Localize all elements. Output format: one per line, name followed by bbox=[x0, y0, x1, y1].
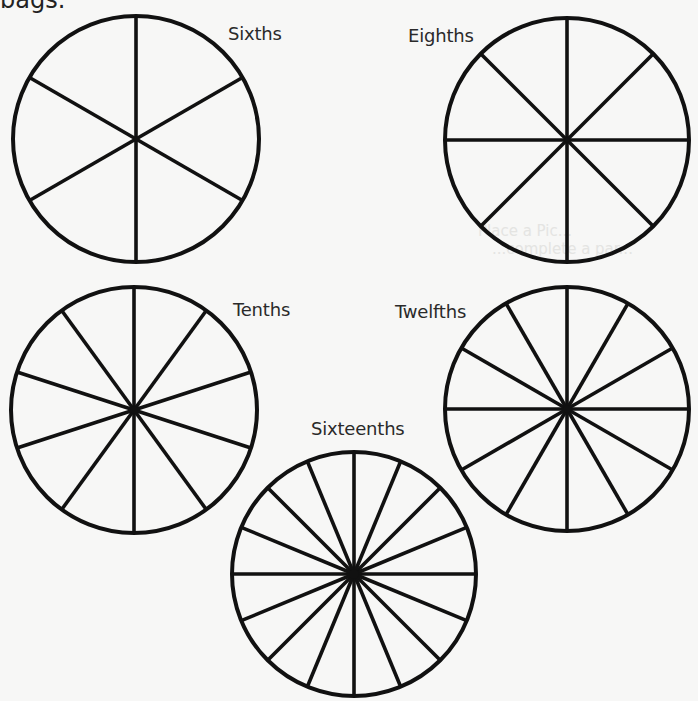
center-point bbox=[131, 407, 138, 414]
division-line bbox=[481, 54, 567, 140]
center-point bbox=[564, 406, 571, 413]
division-line bbox=[134, 410, 206, 510]
division-line bbox=[17, 410, 134, 448]
division-line bbox=[136, 139, 243, 201]
division-line bbox=[17, 372, 134, 410]
division-line bbox=[354, 488, 440, 574]
division-line bbox=[268, 574, 354, 660]
center-point bbox=[349, 569, 359, 579]
division-line bbox=[481, 140, 567, 226]
division-line bbox=[567, 140, 653, 226]
division-line bbox=[62, 410, 134, 510]
division-line bbox=[136, 78, 243, 140]
label-twelfths: Twelfths bbox=[395, 303, 466, 321]
division-line bbox=[134, 310, 206, 410]
division-line bbox=[62, 310, 134, 410]
center-point bbox=[134, 137, 139, 142]
label-tenths: Tenths bbox=[233, 301, 290, 319]
label-sixteenths: Sixteenths bbox=[311, 420, 405, 438]
division-line bbox=[29, 139, 136, 201]
fraction-circles-worksheet: bags. Place a Pic... ...complete a par..… bbox=[0, 0, 698, 701]
fraction-circle-sixteenths bbox=[232, 452, 476, 696]
fraction-circle-twelfths bbox=[445, 287, 689, 531]
fraction-circle-eighths bbox=[445, 18, 689, 262]
fraction-circle-tenths bbox=[11, 287, 257, 533]
center-point bbox=[565, 138, 570, 143]
label-sixths: Sixths bbox=[228, 25, 282, 43]
division-line bbox=[268, 488, 354, 574]
division-line bbox=[134, 410, 251, 448]
fraction-circles-diagram bbox=[0, 0, 698, 701]
division-line bbox=[354, 574, 440, 660]
division-line bbox=[29, 78, 136, 140]
division-line bbox=[134, 372, 251, 410]
label-eighths: Eighths bbox=[408, 27, 474, 45]
fraction-circle-sixths bbox=[13, 16, 259, 262]
division-line bbox=[567, 54, 653, 140]
